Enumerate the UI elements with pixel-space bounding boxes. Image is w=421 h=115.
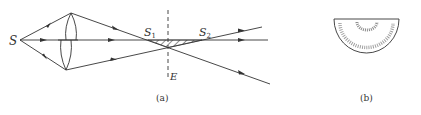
arrow-icon xyxy=(238,38,245,42)
arrow-icon xyxy=(108,38,115,42)
label-s2: S2 xyxy=(199,26,211,40)
caption-b: (b) xyxy=(360,93,373,103)
arrow-icon xyxy=(46,23,51,29)
arrow-icon xyxy=(238,70,245,75)
figure-b: (b) xyxy=(334,19,399,103)
arrow-icon xyxy=(112,26,119,31)
arrow-icon xyxy=(40,38,47,42)
ray-lower-through-s2 xyxy=(66,27,262,70)
ray-source-to-top-lens xyxy=(20,13,71,40)
caption-a: (a) xyxy=(156,93,168,103)
figure-a: S S1 S2 E (a) xyxy=(9,10,270,103)
lens-upper-half xyxy=(66,13,77,40)
billet-split-lens-diagram: S S1 S2 E (a) (b) xyxy=(0,0,421,115)
label-s1: S1 xyxy=(144,26,156,40)
lens-lower-half xyxy=(61,40,72,70)
arrow-icon xyxy=(110,58,117,62)
label-screen-e: E xyxy=(169,71,178,82)
label-source-s: S xyxy=(9,34,17,48)
